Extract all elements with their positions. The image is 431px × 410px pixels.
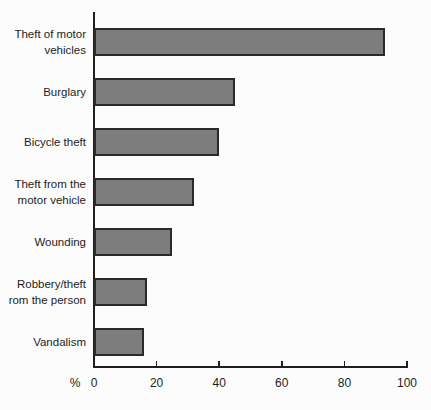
category-label-line: Bicycle theft xyxy=(24,134,86,150)
category-label-burglary: Burglary xyxy=(0,78,86,106)
category-label-line: Robbery/theft xyxy=(17,276,86,292)
x-tick-label-40: 40 xyxy=(204,376,234,390)
bar-robbery-theft-rom-the-person xyxy=(94,278,147,306)
x-tick-label-20: 20 xyxy=(142,376,172,390)
x-axis-unit-label: % xyxy=(63,376,87,390)
x-tick-label-100: 100 xyxy=(392,376,422,390)
category-label-wounding: Wounding xyxy=(0,228,86,256)
bar-wounding xyxy=(94,228,172,256)
x-tick-100 xyxy=(406,361,408,366)
x-tick-80 xyxy=(344,361,346,366)
category-label-robbery-theft-rom-the-person: Robbery/theftrom the person xyxy=(0,278,86,306)
x-axis-line xyxy=(93,366,408,368)
category-label-line: Wounding xyxy=(34,234,86,250)
category-label-theft-of-motor-vehicles: Theft of motorvehicles xyxy=(0,28,86,56)
category-label-line: Theft of motor xyxy=(14,26,86,42)
bar-burglary xyxy=(94,78,235,106)
category-label-bicycle-theft: Bicycle theft xyxy=(0,128,86,156)
x-tick-label-80: 80 xyxy=(329,376,359,390)
category-label-line: motor vehicle xyxy=(18,192,86,208)
category-label-line: rom the person xyxy=(9,292,86,308)
category-label-line: Theft from the xyxy=(14,176,86,192)
category-label-line: Burglary xyxy=(43,84,86,100)
x-tick-20 xyxy=(156,361,158,366)
x-tick-40 xyxy=(218,361,220,366)
x-tick-0 xyxy=(93,361,95,366)
category-label-line: Vandalism xyxy=(33,334,86,350)
category-label-theft-from-the-motor-vehicle: Theft from themotor vehicle xyxy=(0,178,86,206)
crime-bar-chart: Theft of motorvehiclesBurglaryBicycle th… xyxy=(0,0,431,410)
bar-theft-from-the-motor-vehicle xyxy=(94,178,194,206)
bar-vandalism xyxy=(94,328,144,356)
x-tick-60 xyxy=(281,361,283,366)
x-tick-label-60: 60 xyxy=(267,376,297,390)
category-label-line: vehicles xyxy=(44,42,86,58)
bar-bicycle-theft xyxy=(94,128,219,156)
bar-theft-of-motor-vehicles xyxy=(94,28,385,56)
category-label-vandalism: Vandalism xyxy=(0,328,86,356)
